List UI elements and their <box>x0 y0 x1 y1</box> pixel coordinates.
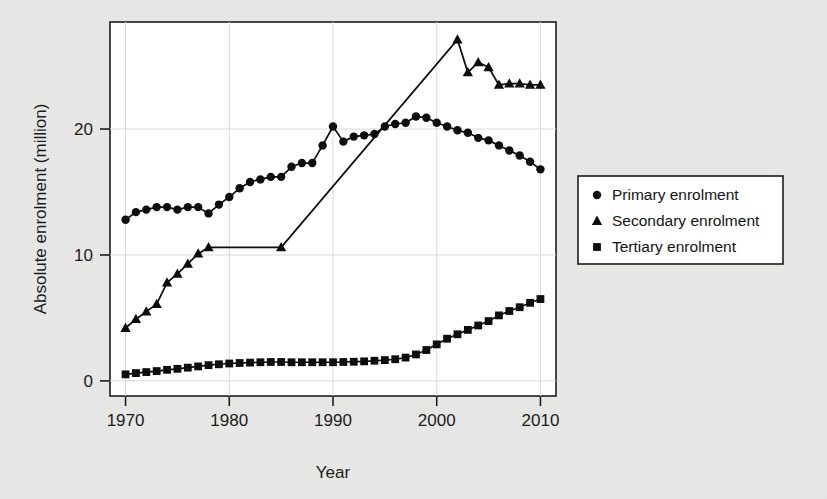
y-tick-label: 10 <box>74 246 93 265</box>
data-point <box>184 203 192 211</box>
data-point <box>485 317 493 325</box>
y-axis-title: Absolute enrolment (million) <box>31 104 50 315</box>
data-point <box>319 358 327 366</box>
data-point <box>515 151 523 159</box>
data-point <box>122 370 130 378</box>
data-point <box>495 312 503 320</box>
data-point <box>215 360 223 368</box>
data-point <box>318 141 326 149</box>
data-point <box>246 178 254 186</box>
circle-marker <box>593 191 601 199</box>
data-point <box>433 119 441 127</box>
data-point <box>474 322 482 330</box>
data-point <box>443 335 451 343</box>
data-point <box>194 203 202 211</box>
legend-item[interactable]: Primary enrolment <box>593 186 740 203</box>
data-point <box>464 326 472 334</box>
x-tick-label: 2010 <box>522 411 560 430</box>
data-point <box>153 367 161 375</box>
data-point <box>329 358 337 366</box>
x-axis-tick-labels: 19701980199020002010 <box>107 411 560 430</box>
data-point <box>215 200 223 208</box>
data-point <box>422 114 430 122</box>
legend-item[interactable]: Secondary enrolment <box>592 212 760 229</box>
data-point <box>142 368 150 376</box>
data-point <box>308 159 316 167</box>
data-point <box>350 358 358 366</box>
data-point <box>433 340 441 348</box>
chart-svg: 19701980199020002010 01020 Year Absolute… <box>0 0 827 499</box>
data-point <box>298 159 306 167</box>
data-point <box>236 359 244 367</box>
data-point <box>163 366 171 374</box>
data-point <box>173 205 181 213</box>
data-point <box>288 358 296 366</box>
data-point <box>381 356 389 364</box>
data-point <box>474 134 482 142</box>
data-point <box>277 173 285 181</box>
data-point <box>225 193 233 201</box>
data-point <box>163 203 171 211</box>
data-point <box>267 173 275 181</box>
data-point <box>371 357 379 365</box>
data-point <box>401 119 409 127</box>
data-point <box>277 358 285 366</box>
y-axis-ticks <box>100 129 110 381</box>
x-axis-title: Year <box>316 463 351 482</box>
data-point <box>329 122 337 130</box>
data-point <box>225 360 233 368</box>
y-tick-label: 20 <box>74 120 93 139</box>
data-point <box>505 146 513 154</box>
x-tick-label: 1980 <box>210 411 248 430</box>
legend-item[interactable]: Tertiary enrolment <box>593 238 737 255</box>
data-point <box>391 355 399 363</box>
data-point <box>412 112 420 120</box>
data-point <box>536 165 544 173</box>
x-axis-ticks <box>126 396 541 406</box>
chart-figure: 19701980199020002010 01020 Year Absolute… <box>0 0 827 499</box>
data-point <box>464 129 472 137</box>
x-tick-label: 2000 <box>418 411 456 430</box>
legend-item-label: Secondary enrolment <box>612 212 760 229</box>
data-point <box>402 354 410 362</box>
data-point <box>391 120 399 128</box>
data-point <box>287 163 295 171</box>
legend-items: Primary enrolmentSecondary enrolmentTert… <box>592 186 760 255</box>
data-point <box>121 216 129 224</box>
data-point <box>256 175 264 183</box>
data-point <box>537 295 545 303</box>
legend-item-label: Primary enrolment <box>612 186 739 203</box>
data-point <box>339 358 347 366</box>
data-point <box>454 330 462 338</box>
legend: Primary enrolmentSecondary enrolmentTert… <box>578 176 783 264</box>
data-point <box>360 131 368 139</box>
data-point <box>360 357 368 365</box>
data-point <box>443 122 451 130</box>
data-point <box>267 358 275 366</box>
data-point <box>174 365 182 373</box>
data-point <box>453 126 461 134</box>
data-point <box>152 203 160 211</box>
data-point <box>422 346 430 354</box>
square-marker <box>593 243 601 251</box>
data-point <box>495 141 503 149</box>
legend-item-label: Tertiary enrolment <box>612 238 737 255</box>
x-tick-label: 1990 <box>314 411 352 430</box>
data-point <box>205 361 213 369</box>
data-point <box>516 303 524 311</box>
x-tick-label: 1970 <box>107 411 145 430</box>
data-point <box>204 209 212 217</box>
data-point <box>505 307 513 315</box>
y-axis-tick-labels: 01020 <box>74 120 93 391</box>
data-point <box>412 351 420 359</box>
data-point <box>184 364 192 372</box>
data-point <box>246 359 254 367</box>
data-point <box>350 132 358 140</box>
data-point <box>339 137 347 145</box>
data-point <box>256 358 264 366</box>
data-point <box>484 136 492 144</box>
data-point <box>526 158 534 166</box>
data-point <box>308 358 316 366</box>
data-point <box>194 363 202 371</box>
data-point <box>526 299 534 307</box>
